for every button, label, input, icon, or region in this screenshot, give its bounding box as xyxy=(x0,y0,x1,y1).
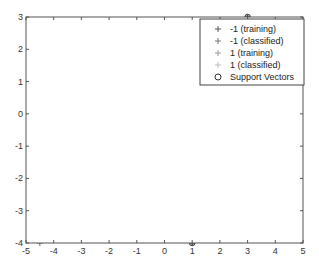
legend-label: -1 (training) xyxy=(230,24,276,34)
y-tick-label: -3 xyxy=(15,206,23,216)
y-tick-label: 3 xyxy=(18,12,23,22)
x-tick-label: 1 xyxy=(190,246,195,256)
x-tick-label: -3 xyxy=(77,246,85,256)
y-tick-label: 2 xyxy=(18,44,23,54)
y-tick-label: -4 xyxy=(15,238,23,248)
y-tick-label: 0 xyxy=(18,109,23,119)
x-tick-label: 4 xyxy=(273,246,278,256)
x-tick-label: 0 xyxy=(162,246,167,256)
y-tick-label: -2 xyxy=(15,173,23,183)
x-tick-label: -5 xyxy=(22,246,30,256)
x-tick-label: 3 xyxy=(245,246,250,256)
x-tick-label: 5 xyxy=(300,246,305,256)
y-tick-label: 1 xyxy=(18,77,23,87)
legend-label: 1 (classified) xyxy=(230,60,281,70)
x-tick-label: -2 xyxy=(105,246,113,256)
x-tick-label: 2 xyxy=(217,246,222,256)
svm-scatter-chart: -5-4-3-2-10123453210-1-2-3-4 -1 (trainin… xyxy=(0,0,319,274)
y-tick-label: -1 xyxy=(15,141,23,151)
x-tick-label: -1 xyxy=(133,246,141,256)
x-tick-label: -4 xyxy=(50,246,58,256)
legend-label: -1 (classified) xyxy=(230,36,284,46)
legend-label: 1 (training) xyxy=(230,48,273,58)
legend-label: Support Vectors xyxy=(230,72,295,82)
legend: -1 (training)-1 (classified)1 (training)… xyxy=(200,19,304,85)
